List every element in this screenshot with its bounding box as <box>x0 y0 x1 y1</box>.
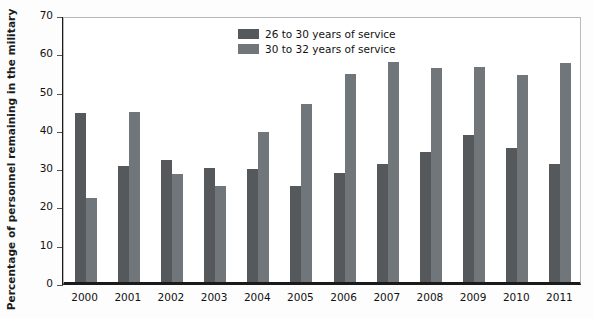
x-axis-tick-label: 2000 <box>71 291 98 303</box>
bar <box>377 164 388 282</box>
y-axis-title: Percentage of personnel remaining in the… <box>0 0 22 319</box>
bar <box>517 75 528 282</box>
y-axis-tick-label: 70 <box>40 9 53 21</box>
y-axis-tick-label: 20 <box>40 200 53 212</box>
bar <box>506 148 517 282</box>
bar <box>474 67 485 282</box>
bar <box>560 63 571 282</box>
y-axis-tick-label: 0 <box>46 277 53 289</box>
bar-chart: Percentage of personnel remaining in the… <box>0 0 594 319</box>
bar <box>290 186 301 282</box>
bar <box>301 104 312 282</box>
bar <box>86 198 97 282</box>
legend-item: 26 to 30 years of service <box>238 27 396 40</box>
bar <box>388 62 399 282</box>
bar <box>334 173 345 282</box>
x-axis-tick-label: 2009 <box>460 291 487 303</box>
y-axis-tick: 40 <box>0 132 63 133</box>
bar <box>463 135 474 282</box>
plot-area <box>64 18 580 282</box>
bar <box>345 74 356 282</box>
x-axis-tick-label: 2002 <box>158 291 185 303</box>
y-axis-tick-label: 10 <box>40 239 53 251</box>
y-axis-tick: 50 <box>0 94 63 95</box>
legend-swatch <box>238 44 259 54</box>
y-axis-tick-label: 60 <box>40 47 53 59</box>
bar <box>75 113 86 282</box>
x-axis-tick-label: 2004 <box>244 291 271 303</box>
bar <box>431 68 442 282</box>
bar <box>420 152 431 282</box>
legend-swatch <box>238 29 259 39</box>
bar <box>215 186 226 282</box>
y-axis-tick-mark <box>57 285 63 286</box>
y-axis-tick: 10 <box>0 247 63 248</box>
y-axis-tick: 0 <box>0 285 63 286</box>
x-axis-tick-label: 2006 <box>330 291 357 303</box>
legend-item: 30 to 32 years of service <box>238 42 396 55</box>
bar <box>172 174 183 282</box>
plot-frame <box>63 17 581 285</box>
x-axis-tick-label: 2008 <box>417 291 444 303</box>
y-axis-tick: 60 <box>0 55 63 56</box>
legend-label: 26 to 30 years of service <box>265 28 396 40</box>
x-axis-tick-label: 2005 <box>287 291 314 303</box>
x-axis-tick-label: 2003 <box>201 291 228 303</box>
chart-legend: 26 to 30 years of service30 to 32 years … <box>238 27 396 55</box>
x-axis-tick-label: 2010 <box>503 291 530 303</box>
x-axis-tick-label: 2007 <box>373 291 400 303</box>
legend-label: 30 to 32 years of service <box>265 43 396 55</box>
bar <box>129 112 140 282</box>
y-axis-tick: 70 <box>0 17 63 18</box>
bar <box>204 168 215 282</box>
y-axis-tick: 30 <box>0 170 63 171</box>
bar <box>549 164 560 282</box>
bar <box>247 169 258 282</box>
y-axis-tick-label: 30 <box>40 162 53 174</box>
x-axis-tick-label: 2001 <box>114 291 141 303</box>
bar <box>118 166 129 282</box>
y-axis-tick-label: 50 <box>40 86 53 98</box>
y-axis-tick-label: 40 <box>40 124 53 136</box>
bar <box>161 160 172 282</box>
x-axis-tick-label: 2011 <box>546 291 573 303</box>
bar <box>258 132 269 282</box>
y-axis-tick: 20 <box>0 208 63 209</box>
